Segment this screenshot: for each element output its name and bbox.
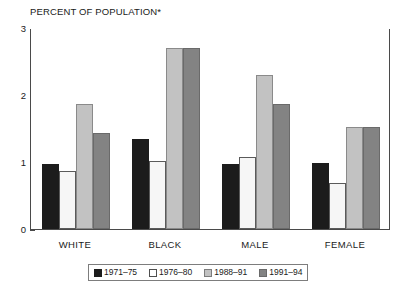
bar (166, 48, 183, 229)
x-axis-category-label: WHITE (30, 239, 120, 250)
bar-chart: PERCENT OF POPULATION* 0123 WHITEBLACKMA… (0, 0, 406, 290)
legend-swatch-icon (259, 269, 267, 277)
legend-item: 1988–91 (204, 268, 247, 277)
legend-swatch-icon (94, 269, 102, 277)
bar (363, 127, 380, 229)
legend-item-label: 1976–80 (159, 268, 192, 277)
y-axis-tick-label: 0 (0, 224, 26, 235)
y-axis-tick-label: 2 (0, 90, 26, 101)
bar (256, 75, 273, 229)
bar (42, 164, 59, 229)
bar (239, 157, 256, 229)
legend-item-label: 1988–91 (214, 268, 247, 277)
bar (59, 171, 76, 229)
bar (312, 163, 329, 229)
x-axis-category-label: FEMALE (300, 239, 390, 250)
bar (329, 183, 346, 229)
legend-item: 1991–94 (259, 268, 302, 277)
bar (273, 104, 290, 229)
y-axis-tick-mark (30, 230, 35, 231)
legend-swatch-icon (149, 269, 157, 277)
bar (76, 104, 93, 229)
x-axis-category-label: MALE (210, 239, 300, 250)
bar (93, 133, 110, 229)
chart-legend: 1971–75 1976–80 1988–91 1991–94 (88, 264, 308, 281)
plot-area (30, 29, 390, 230)
bar (183, 48, 200, 229)
y-axis-tick-label: 1 (0, 157, 26, 168)
legend-item: 1976–80 (149, 268, 192, 277)
legend-item: 1971–75 (94, 268, 137, 277)
legend-item-label: 1991–94 (269, 268, 302, 277)
legend-swatch-icon (204, 269, 212, 277)
bar (346, 127, 363, 229)
bar (222, 164, 239, 229)
x-axis-category-label: BLACK (120, 239, 210, 250)
bar (149, 161, 166, 229)
chart-title: PERCENT OF POPULATION* (30, 6, 161, 17)
y-axis-tick-label: 3 (0, 23, 26, 34)
bar (132, 139, 149, 229)
legend-item-label: 1971–75 (104, 268, 137, 277)
